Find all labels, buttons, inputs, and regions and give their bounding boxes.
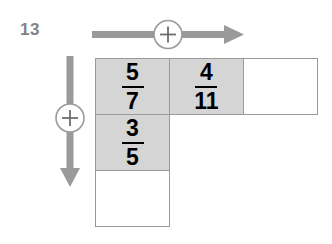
fraction-3-5: 3 5 (122, 117, 144, 169)
problem-number: 13 (20, 21, 40, 38)
fraction-4-11: 4 11 (194, 61, 218, 113)
vertical-arrow-shaft-bottom (67, 132, 74, 170)
fraction-numerator: 3 (126, 117, 139, 141)
horizontal-operator-circle (154, 21, 182, 49)
vertical-operator-circle (56, 104, 84, 132)
grid-cell-r2c1[interactable]: 3 5 (95, 114, 170, 171)
grid-cell-r3c1-answer[interactable] (95, 170, 170, 227)
fraction-denominator: 5 (126, 146, 139, 169)
grid-cell-r1c1[interactable]: 5 7 (95, 58, 170, 115)
fraction-denominator: 11 (194, 90, 218, 113)
horizontal-arrow-head (224, 25, 244, 44)
grid-cell-r1c3-answer[interactable] (243, 58, 318, 115)
grid-cell-r1c2[interactable]: 4 11 (169, 58, 244, 115)
fraction-numerator: 5 (126, 61, 139, 85)
vertical-arrow-shaft-top (67, 56, 74, 104)
fraction-grid: 5 7 4 11 3 5 (95, 58, 318, 227)
worksheet-canvas: 13 5 7 4 (0, 0, 332, 244)
fraction-5-7: 5 7 (122, 61, 144, 113)
vertical-arrow-head (60, 168, 80, 187)
fraction-numerator: 4 (200, 61, 213, 85)
horizontal-arrow-shaft-right (182, 31, 226, 38)
horizontal-arrow-shaft-left (92, 31, 154, 38)
fraction-denominator: 7 (126, 90, 139, 113)
